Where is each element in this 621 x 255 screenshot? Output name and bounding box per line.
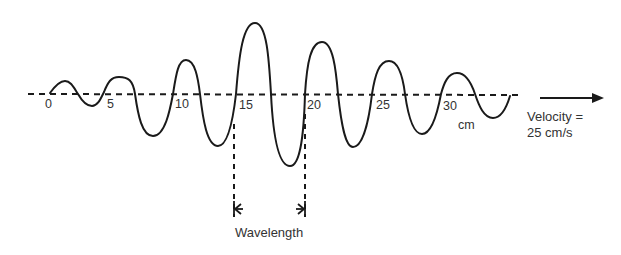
wavelength-arrow-left-icon: [234, 201, 243, 217]
tick-label-20: 20: [307, 98, 321, 112]
tick-label-15: 15: [239, 98, 253, 112]
tick-label-5: 5: [107, 97, 114, 111]
wavelength-label: Wavelength: [235, 226, 303, 240]
tick-label-0: 0: [45, 97, 52, 111]
wavelength-arrow-right-icon: [296, 201, 305, 217]
unit-label: cm: [458, 118, 475, 132]
tick-label-10: 10: [175, 97, 189, 111]
velocity-label-line2: 25 cm/s: [527, 126, 573, 140]
tick-label-30: 30: [443, 99, 457, 113]
tick-label-25: 25: [376, 98, 390, 112]
velocity-label-line1: Velocity =: [527, 110, 583, 124]
velocity-arrow-icon: [540, 93, 604, 103]
